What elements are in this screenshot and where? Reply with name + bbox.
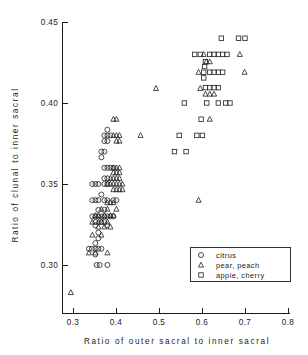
data-point-circle: [99, 246, 104, 251]
axis-titles: Ratio of outer sacral to inner sacralRat…: [11, 87, 270, 346]
data-point-square: [216, 85, 220, 89]
y-axis-ticks: 0.300.350.400.45: [41, 18, 68, 270]
data-point-square: [243, 36, 247, 40]
data-point-triangle: [242, 69, 247, 74]
data-point-circle: [93, 241, 98, 246]
chart-legend: citruspear, peachapple, cherry: [190, 247, 290, 281]
data-point-square: [201, 76, 205, 80]
data-point-triangle: [153, 86, 158, 91]
y-tick-label: 0.40: [41, 99, 58, 108]
data-point-square: [201, 70, 205, 74]
data-point-square: [195, 133, 199, 137]
data-point-square: [208, 70, 212, 74]
data-point-triangle: [198, 86, 203, 91]
data-point-square: [223, 101, 227, 105]
data-point-square: [208, 85, 212, 89]
series-apple-cherry: [172, 36, 247, 154]
x-tick-label: 0.7: [239, 318, 251, 327]
data-point-triangle: [105, 206, 110, 211]
data-point-square: [202, 64, 206, 68]
data-point-square: [220, 52, 224, 56]
data-point-circle: [99, 155, 104, 160]
x-tick-label: 0.3: [67, 318, 79, 327]
data-point-triangle: [196, 197, 201, 202]
data-point-square: [212, 70, 216, 74]
data-point-triangle: [207, 116, 212, 121]
data-point-circle: [96, 182, 101, 187]
x-axis-title: Ratio of outer sacral to inner sacral: [84, 337, 270, 346]
legend-label-citrus: citrus: [216, 251, 236, 260]
data-point-square: [220, 70, 224, 74]
y-axis-title: Ratio of clunal to inner sacral: [11, 87, 20, 242]
data-point-circle: [96, 198, 101, 203]
data-point-square: [216, 101, 220, 105]
data-point-circle: [99, 192, 104, 197]
data-point-square: [172, 149, 176, 153]
legend-label-pear-peach: pear, peach: [216, 261, 260, 270]
data-point-triangle: [105, 250, 110, 255]
data-point-square: [219, 36, 223, 40]
x-axis-ticks: 0.30.40.50.60.70.8: [67, 308, 294, 327]
data-point-triangle: [90, 232, 95, 237]
data-point-triangle: [68, 290, 73, 295]
scatter-plot-figure: 0.300.350.400.45 0.30.40.50.60.70.8 citr…: [0, 0, 308, 355]
data-point-square: [212, 85, 216, 89]
data-point-triangle: [99, 206, 104, 211]
data-point-circle: [102, 149, 107, 154]
data-point-triangle: [138, 133, 143, 138]
data-point-square: [199, 117, 203, 121]
data-point-square: [182, 101, 186, 105]
data-point-square: [228, 101, 232, 105]
y-tick-label: 0.35: [41, 180, 58, 189]
data-point-square: [212, 52, 216, 56]
data-point-square: [225, 52, 229, 56]
y-tick-label: 0.30: [41, 261, 58, 270]
x-tick-label: 0.4: [110, 318, 122, 327]
x-tick-label: 0.8: [282, 318, 294, 327]
data-point-triangle: [196, 69, 201, 74]
data-point-square: [192, 52, 196, 56]
plot-canvas: 0.300.350.400.45 0.30.40.50.60.70.8 citr…: [0, 0, 308, 355]
data-point-circle: [97, 263, 102, 268]
data-point-square: [203, 85, 207, 89]
data-point-square: [216, 52, 220, 56]
data-point-circle: [105, 139, 110, 144]
data-point-triangle: [108, 224, 113, 229]
data-point-triangle: [211, 91, 216, 96]
data-point-circle: [96, 236, 101, 241]
x-tick-label: 0.6: [196, 318, 208, 327]
data-point-circle: [105, 263, 110, 268]
data-point-square: [236, 36, 240, 40]
legend-label-apple-cherry: apple, cherry: [216, 271, 265, 280]
data-point-square: [184, 149, 188, 153]
series-citrus: [86, 127, 119, 267]
y-tick-label: 0.45: [41, 18, 58, 27]
data-point-square: [200, 133, 204, 137]
data-point-square: [216, 70, 220, 74]
x-tick-label: 0.5: [153, 318, 165, 327]
data-point-square: [205, 101, 209, 105]
data-point-triangle: [114, 206, 119, 211]
data-point-triangle: [96, 224, 101, 229]
data-point-square: [208, 52, 212, 56]
data-point-triangle: [237, 52, 242, 57]
data-point-square: [177, 133, 181, 137]
data-point-circle: [105, 127, 110, 132]
